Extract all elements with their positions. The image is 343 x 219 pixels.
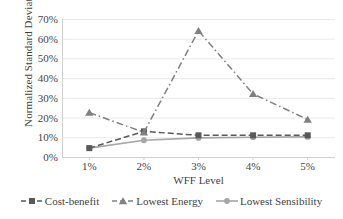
x-axis-tick-label: 2%: [137, 160, 152, 173]
legend-marker-icon: [21, 195, 43, 207]
data-point-marker: [29, 198, 35, 204]
y-axis-tick-label: 0%: [26, 152, 58, 163]
y-axis-tick-label: 40%: [26, 73, 58, 84]
data-series-layer: [85, 27, 312, 151]
legend-item[interactable]: Lowest Sensibility: [216, 195, 322, 208]
y-axis-tick-labels: 0%10%20%30%40%50%60%70%: [26, 0, 58, 219]
legend-label: Lowest Sensibility: [240, 195, 322, 208]
y-axis-tick-label: 30%: [26, 92, 58, 103]
data-point-marker: [141, 137, 147, 143]
x-axis-tick-label: 1%: [82, 160, 97, 173]
x-axis-tick-label: 3%: [191, 160, 206, 173]
legend-label: Lowest Energy: [136, 195, 203, 208]
chart-figure: Normalized Standard Deviation 0%10%20%30…: [0, 0, 343, 219]
y-axis-tick-label: 20%: [26, 112, 58, 123]
y-axis-tick-label: 10%: [26, 132, 58, 143]
series-line: [89, 31, 307, 133]
data-point-marker: [304, 116, 312, 123]
data-point-marker: [85, 109, 93, 116]
legend-label: Cost-benefit: [45, 195, 99, 208]
y-axis-tick-label: 60%: [26, 33, 58, 44]
legend-marker-icon: [216, 195, 238, 207]
plot-area: [62, 19, 335, 157]
data-point-marker: [305, 132, 311, 138]
chart-legend: Cost-benefitLowest EnergyLowest Sensibil…: [0, 191, 343, 211]
data-point-marker: [86, 145, 92, 151]
data-point-marker: [194, 27, 202, 34]
legend-item[interactable]: Lowest Energy: [112, 195, 203, 208]
data-point-marker: [224, 198, 230, 204]
chart-canvas: [62, 19, 335, 157]
x-axis-tick-label: 5%: [300, 160, 315, 173]
data-point-marker: [196, 132, 202, 138]
legend-item[interactable]: Cost-benefit: [21, 195, 99, 208]
legend-marker-icon: [112, 195, 134, 207]
data-point-marker: [250, 132, 256, 138]
series-lowest-energy: [85, 27, 312, 136]
x-axis-tick-label: 4%: [246, 160, 261, 173]
y-axis-tick-label: 50%: [26, 53, 58, 64]
y-axis-tick-label: 70%: [26, 14, 58, 25]
x-axis-title: WFF Level: [62, 174, 335, 186]
